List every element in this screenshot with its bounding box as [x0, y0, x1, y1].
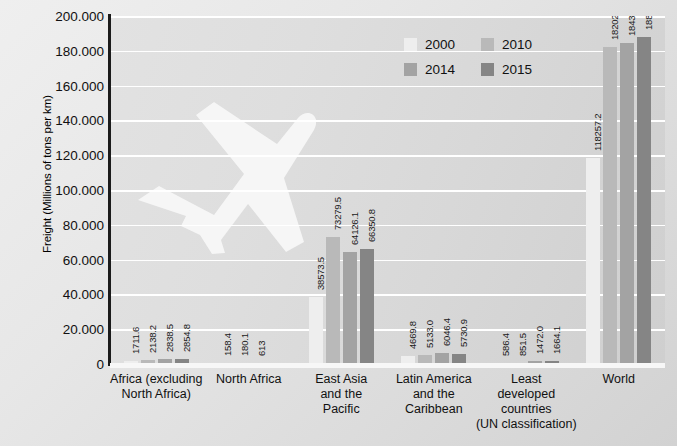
y-tick-label: 100.000 [55, 183, 104, 198]
bar-value-label: 73279.5 [331, 197, 342, 230]
bar-value-label: 2138.2 [146, 325, 157, 353]
legend-label: 2010 [502, 37, 532, 52]
legend-item[interactable]: 2015 [481, 62, 532, 77]
legend-item[interactable]: 2014 [404, 62, 455, 77]
x-category-label: World [559, 372, 677, 387]
bar-group: 118257.2182025.6184315.2188000.2 [573, 16, 666, 364]
legend-swatch-icon [481, 63, 494, 76]
bar-value-label: 2838.5 [163, 324, 174, 352]
bar-value-label: 5133.0 [424, 320, 435, 348]
y-tick-label: 120.000 [55, 148, 104, 163]
bar-value-label: 184315.2 [626, 16, 637, 36]
legend-label: 2014 [425, 62, 455, 77]
bar-value-label: 38573.5 [314, 257, 325, 290]
y-tick-label: 160.000 [55, 78, 104, 93]
legend-item[interactable]: 2010 [481, 37, 532, 52]
legend-item[interactable]: 2000 [404, 37, 455, 52]
x-axis-baseline [110, 363, 665, 368]
bar-value-label: 613 [256, 340, 267, 355]
bar[interactable] [620, 43, 634, 364]
y-tick-label: 200.000 [55, 9, 104, 24]
bar-group: 38573.573279.564126.166350.8 [295, 16, 388, 364]
y-tick-label: 140.000 [55, 113, 104, 128]
bar-value-label: 1664.1 [550, 326, 561, 354]
bar[interactable] [343, 252, 357, 364]
bar-value-label: 586.4 [499, 333, 510, 356]
y-axis-line [108, 14, 111, 366]
y-tick-label: 180.000 [55, 43, 104, 58]
legend: 2000201020142015 [404, 37, 532, 77]
bar-value-label: 158.4 [222, 333, 233, 356]
bar-value-label: 4669.8 [407, 321, 418, 349]
bar-value-label: 2854.8 [180, 324, 191, 352]
freight-bar-chart: Freight (Millions of tons per km) 200.00… [0, 0, 677, 446]
bar-value-label: 188000.2 [643, 16, 654, 30]
bar-value-label: 118257.2 [592, 114, 603, 151]
bar-group: 158.4180.1613 [203, 16, 296, 364]
legend-label: 2015 [502, 62, 532, 77]
bar-value-label: 64126.1 [348, 212, 359, 245]
bar-value-label: 1711.6 [129, 327, 140, 354]
bar[interactable] [603, 47, 617, 364]
y-tick-label: 60.000 [63, 252, 104, 267]
bar-value-label: 851.5 [516, 333, 527, 356]
bar-value-label: 6046.4 [441, 319, 452, 347]
legend-swatch-icon [404, 63, 417, 76]
bar-value-label: 5730.9 [458, 319, 469, 347]
plot-area: 1711.62138.22838.52854.8158.4180.1613385… [110, 16, 665, 364]
bar[interactable] [360, 249, 374, 364]
y-tick-label: 20.000 [63, 322, 104, 337]
y-tick-label: 80.000 [63, 217, 104, 232]
bar-value-label: 180.1 [239, 333, 250, 356]
y-tick-label: 0 [96, 357, 104, 372]
legend-swatch-icon [481, 38, 494, 51]
bar-group: 1711.62138.22838.52854.8 [110, 16, 203, 364]
bar-value-label: 1472.0 [533, 327, 544, 355]
bar[interactable] [637, 37, 651, 364]
legend-swatch-icon [404, 38, 417, 51]
bar[interactable] [309, 297, 323, 364]
x-axis-category-labels: Africa (excludingNorth Africa)North Afri… [110, 372, 665, 444]
bar-value-label: 182025.6 [609, 16, 620, 40]
legend-label: 2000 [425, 37, 455, 52]
bar[interactable] [586, 158, 600, 364]
y-tick-label: 40.000 [63, 287, 104, 302]
bars-layer: 1711.62138.22838.52854.8158.4180.1613385… [110, 16, 665, 364]
bar[interactable] [326, 237, 340, 365]
y-axis-tick-labels: 200.000180.000160.000140.000120.000100.0… [36, 16, 104, 364]
bar-value-label: 66350.8 [365, 209, 376, 242]
